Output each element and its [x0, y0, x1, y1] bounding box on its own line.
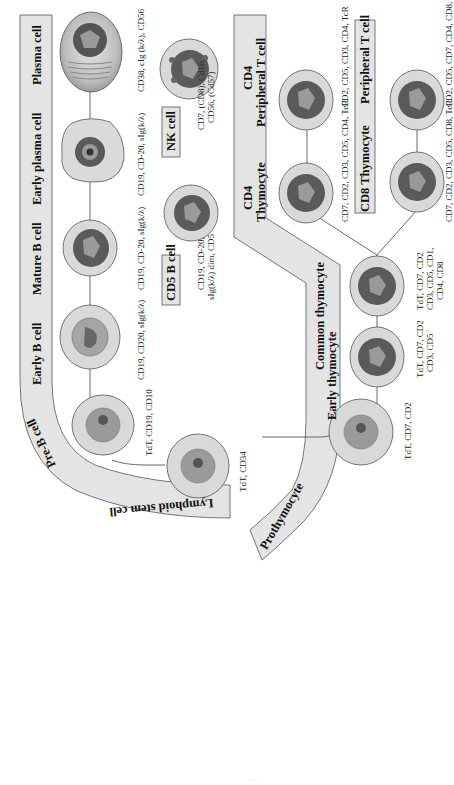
markers-early-b-cell: CD19, CD20, sIg(k/λ) — [136, 300, 146, 380]
markers-plasma-cell: CD38, cIg (k/λ), CD56 — [136, 9, 146, 92]
label-cd5-b-cell: CD5 B cell — [164, 244, 179, 301]
pre-b-cell-drawing — [72, 395, 134, 455]
cd5-b-cell-drawing — [164, 185, 218, 241]
markers-early-thymocyte-line1: TdT, CD7, CD2 — [415, 320, 425, 378]
cd4-thymocyte-drawing — [279, 163, 333, 223]
markers-prothymocyte: TdT, CD7, CD2 — [403, 402, 413, 460]
label-cd8-thymocyte: CD8 Thymocyte — [358, 125, 373, 212]
markers-early-thymocyte-line2: CD3, CD5 — [425, 333, 435, 372]
label-nk-cell: NK cell — [164, 111, 179, 151]
markers-cd4-peripheral-t-cell: CD2, CD5, CD3, CD4, TcR — [340, 6, 350, 107]
label-mature-b-cell: Mature B cell — [30, 222, 45, 295]
early-plasma-cell-drawing — [62, 119, 124, 182]
label-early-plasma-cell: Early plasma cell — [30, 113, 45, 205]
early-thymocyte-drawing — [350, 327, 404, 387]
early-b-cell-drawing — [60, 305, 120, 369]
lymphoid-stem-cell-drawing — [167, 434, 229, 498]
markers-early-plasma-cell: CD19, CD-20, sIg(k/λ) — [136, 113, 146, 196]
markers-cd5-b-cell-line2: sIg(k/λ) dim, CD5 — [206, 234, 216, 300]
markers-common-thymocyte-line3: CD4, CD8 — [435, 261, 445, 300]
markers-lymphoid-stem-cell: TdT, CD34 — [238, 451, 248, 492]
markers-common-thymocyte-line2: CD3, CD5, CD1, — [425, 248, 435, 310]
label-cd8-peripheral-t-cell: Peripheral T cell — [358, 15, 373, 104]
label-early-b-cell: Early B cell — [30, 323, 45, 386]
label-cd4-peripheral-line2: Peripheral T cell — [254, 38, 269, 127]
markers-nk-cell-line2: CD56, (Cd57) — [206, 72, 216, 124]
label-plasma-cell: Plasma cell — [30, 25, 45, 85]
markers-nk-cell-line1: CD7, (CD8), Cd16, — [196, 59, 206, 130]
markers-cd8-peripheral-t-cell: CD2, CD5, CD7, CD4, CD8, TcR — [444, 0, 454, 107]
markers-common-thymocyte-line1: TdT, CD7, CD2 — [415, 252, 425, 310]
cd8-thymocyte-drawing — [390, 152, 444, 212]
page-number: · · · — [248, 778, 257, 784]
markers-cd5-b-cell-line1: CD19, CD-20, — [196, 237, 206, 290]
markers-pre-b-cell: TdT, CD19, CD10 — [144, 389, 154, 456]
mature-b-cell-drawing — [63, 220, 117, 276]
markers-cd8-thymocyte: CD7, CD2, CD3, CD5, CD8, TcR — [444, 100, 454, 222]
plasma-cell-drawing — [60, 12, 122, 92]
common-thymocyte-drawing — [350, 256, 404, 316]
cd8-peripheral-t-cell-drawing — [390, 70, 444, 130]
cd4-peripheral-t-cell-drawing — [279, 70, 333, 130]
label-early-thymocyte: Early thymocyte — [325, 331, 340, 420]
markers-mature-b-cell: CD19, CD-20, sIg(k/λ) — [136, 207, 146, 290]
label-cd4-thymocyte-line2: Thymocyte — [254, 162, 269, 222]
markers-cd4-thymocyte: CD7, CD2, CD3, CD5, CD4, TcR — [340, 100, 350, 222]
